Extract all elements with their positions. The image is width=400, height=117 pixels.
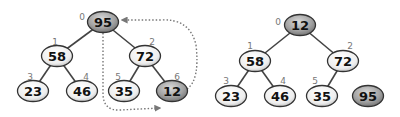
heap-node: 95 [353,86,384,107]
left-tree-nodes: 950581722233464355126 [18,12,188,102]
node-value: 72 [136,49,154,64]
heap-node: 355 [109,72,140,102]
node-value: 46 [271,89,289,104]
node-value: 12 [291,18,309,33]
right-tree-nodes: 12058172223346435595 [216,15,384,107]
node-value: 95 [359,89,377,104]
node-index-label: 1 [52,37,58,47]
node-value: 23 [222,89,240,104]
heap-node: 581 [42,37,73,67]
node-index-label: 6 [174,72,180,82]
heap-node: 355 [307,76,338,107]
node-value: 95 [94,15,112,30]
node-value: 35 [313,89,331,104]
node-index-label: 3 [223,76,229,86]
node-index-label: 3 [27,72,33,82]
heap-swap-diagram: 950581722233464355126 120581722233464355… [0,0,400,117]
heap-node: 950 [79,12,118,33]
node-index-label: 5 [115,72,121,82]
node-value: 72 [334,54,352,69]
node-value: 12 [163,84,181,99]
node-value: 46 [73,84,91,99]
node-index-label: 2 [149,37,155,47]
node-index-label: 2 [347,41,353,51]
node-value: 58 [246,54,264,69]
node-index-label: 4 [83,72,89,82]
heap-node: 120 [275,15,315,36]
node-value: 58 [48,49,66,64]
node-index-label: 4 [280,76,286,86]
node-value: 35 [115,84,133,99]
heap-node: 581 [240,41,271,72]
node-value: 23 [24,84,42,99]
heap-node: 722 [328,41,359,72]
node-index-label: 1 [247,41,253,51]
node-index-label: 5 [312,76,318,86]
node-index-label: 0 [275,17,281,27]
heap-node: 722 [130,37,161,67]
node-index-label: 0 [79,12,85,22]
